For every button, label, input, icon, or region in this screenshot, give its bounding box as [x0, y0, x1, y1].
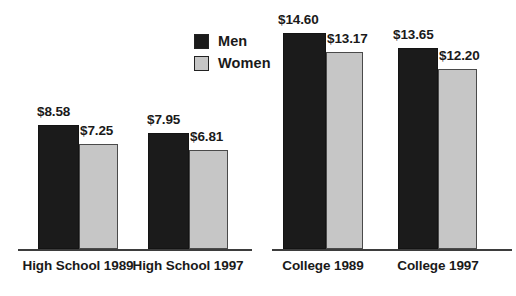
bar-women-college-1989 [326, 52, 363, 249]
bar-group-college-1989: $14.60 $13.17 College 1989 [278, 0, 378, 249]
axis-baseline-college [272, 249, 512, 251]
bar-group-high-school-1989: $8.58 $7.25 High School 1989 [32, 0, 137, 249]
bar-group-college-1997: $13.65 $12.20 College 1997 [393, 0, 493, 249]
bar-value-men-high-school-1997: $7.95 [147, 113, 180, 127]
category-label-high-school-1997: High School 1997 [133, 258, 244, 273]
panel-high-school: $8.58 $7.25 High School 1989 $7.95 $6.81… [14, 0, 254, 296]
bar-value-men-high-school-1989: $8.58 [37, 105, 70, 119]
bar-men-high-school-1997 [148, 133, 189, 249]
category-label-high-school-1989: High School 1989 [23, 258, 134, 273]
category-label-college-1997: College 1997 [397, 258, 478, 273]
axis-baseline-high-school [18, 249, 252, 251]
bar-value-women-college-1989: $13.17 [327, 32, 368, 46]
bar-value-women-high-school-1989: $7.25 [80, 124, 113, 138]
bar-group-high-school-1997: $7.95 $6.81 High School 1997 [142, 0, 247, 249]
category-label-college-1989: College 1989 [282, 258, 363, 273]
bar-men-college-1997 [398, 48, 438, 249]
bar-men-high-school-1989 [38, 125, 79, 249]
bar-women-college-1997 [438, 69, 477, 249]
bar-value-men-college-1989: $14.60 [278, 13, 319, 27]
grouped-bar-chart: Men Women $8.58 $7.25 High School 1989 $… [0, 0, 516, 296]
panel-college: $14.60 $13.17 College 1989 $13.65 $12.20… [268, 0, 514, 296]
bar-value-women-college-1997: $12.20 [439, 49, 480, 63]
bar-women-high-school-1997 [189, 150, 228, 249]
bar-women-high-school-1989 [79, 144, 118, 249]
bar-men-college-1989 [283, 33, 326, 249]
bar-value-men-college-1997: $13.65 [393, 28, 434, 42]
bar-value-women-high-school-1997: $6.81 [190, 130, 223, 144]
